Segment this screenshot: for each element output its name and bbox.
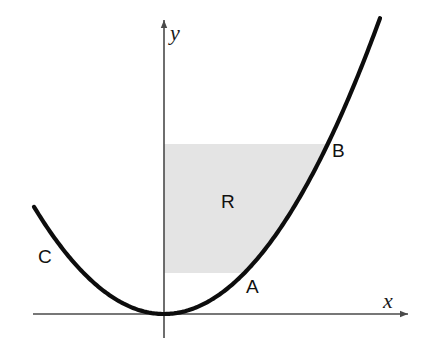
curve-label-c: C <box>38 246 52 267</box>
x-axis <box>33 311 408 317</box>
y-axis-arrowhead <box>161 20 167 28</box>
parabola-diagram: x y C R A B <box>0 0 434 353</box>
x-axis-label: x <box>382 288 393 313</box>
region-label-r: R <box>221 191 235 212</box>
point-label-b: B <box>332 140 345 161</box>
point-label-a: A <box>246 276 259 297</box>
shaded-region-R <box>164 144 328 273</box>
y-axis-label: y <box>168 20 180 45</box>
figure-canvas: x y C R A B <box>0 0 434 353</box>
x-axis-arrowhead <box>400 311 408 317</box>
